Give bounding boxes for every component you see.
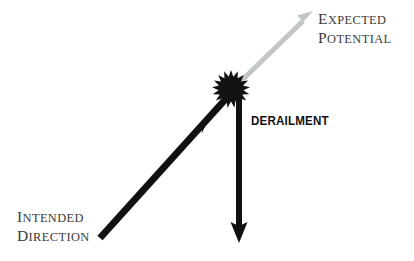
diagram-canvas: INTENDED DIRECTION EXPECTED POTENTIAL DE… <box>0 0 414 261</box>
expected-potential-label-line2: POTENTIAL <box>318 29 391 46</box>
derailment-label: DERAILMENT <box>251 113 329 128</box>
intended-direction-label-line1: INTENDED <box>17 208 84 225</box>
intended-direction-label-line2: DIRECTION <box>17 227 90 244</box>
expected-potential-label-line1: EXPECTED <box>318 10 386 27</box>
derailment-diagram: INTENDED DIRECTION EXPECTED POTENTIAL DE… <box>0 0 414 261</box>
